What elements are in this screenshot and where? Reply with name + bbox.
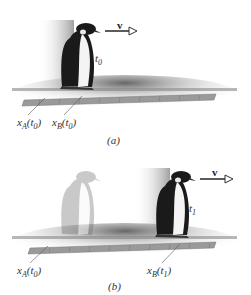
marker-xa-label: xA(t0) bbox=[17, 116, 41, 131]
caption-a: (a) bbox=[107, 134, 120, 146]
time-label: t0 bbox=[95, 52, 102, 67]
panel-a: v t0 xA(t0) xB(t0) (a) bbox=[0, 0, 251, 148]
velocity-label: v bbox=[117, 19, 123, 31]
panel-b: v t1 xA(t0) xB(t1) (b) bbox=[0, 148, 251, 295]
marker-xb-label: xB(t0) bbox=[52, 116, 76, 131]
time-label: t1 bbox=[189, 202, 196, 217]
velocity-label: v bbox=[212, 166, 218, 178]
caption-b: (b) bbox=[108, 280, 121, 292]
marker-xb-label: xB(t1) bbox=[147, 264, 171, 279]
marker-xa-label: xA(t0) bbox=[17, 264, 41, 279]
